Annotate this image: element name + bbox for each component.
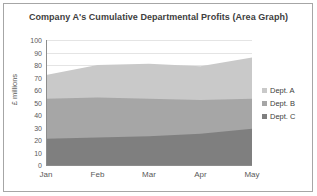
y-axis-title: £ millions: [10, 60, 19, 120]
x-axis-tick-label: Feb: [78, 170, 118, 179]
y-axis-line: [46, 40, 47, 166]
chart-legend: Dept. ADept. BDept. C: [262, 84, 314, 123]
legend-swatch-icon: [262, 101, 267, 106]
y-axis-tick-label: 80: [22, 62, 42, 69]
y-axis-tick-label: 60: [22, 87, 42, 94]
legend-item-label: Dept. B: [270, 99, 295, 108]
y-axis-tick-label: 40: [22, 112, 42, 119]
area-series-group: [46, 40, 252, 165]
x-axis-tick-label: Jan: [26, 170, 66, 179]
chart-figure: Company A's Cumulative Departmental Prof…: [0, 0, 317, 196]
legend-item[interactable]: Dept. C: [262, 110, 314, 123]
y-axis-tick-labels: 1009080706050403020100: [22, 40, 42, 165]
legend-item[interactable]: Dept. B: [262, 97, 314, 110]
x-axis-tick-label: May: [232, 170, 272, 179]
legend-swatch-icon: [262, 88, 267, 93]
x-axis-tick-labels: JanFebMarAprMay: [46, 170, 252, 184]
y-axis-tick-label: 100: [22, 37, 42, 44]
legend-item-label: Dept. A: [270, 86, 295, 95]
y-axis-tick-label: 70: [22, 74, 42, 81]
legend-swatch-icon: [262, 114, 267, 119]
x-axis-tick-label: Mar: [129, 170, 169, 179]
plot-area: [46, 40, 252, 165]
x-axis-line: [46, 165, 252, 166]
y-axis-tick-label: 10: [22, 149, 42, 156]
area-chart-svg: [46, 40, 252, 165]
x-axis-tick-label: Apr: [181, 170, 221, 179]
legend-item-label: Dept. C: [270, 112, 295, 121]
y-axis-tick-label: 20: [22, 137, 42, 144]
legend-item[interactable]: Dept. A: [262, 84, 314, 97]
y-axis-tick-label: 90: [22, 49, 42, 56]
y-axis-tick-label: 50: [22, 99, 42, 106]
y-axis-tick-label: 0: [22, 162, 42, 169]
y-axis-tick-label: 30: [22, 124, 42, 131]
chart-title: Company A's Cumulative Departmental Prof…: [0, 12, 317, 22]
